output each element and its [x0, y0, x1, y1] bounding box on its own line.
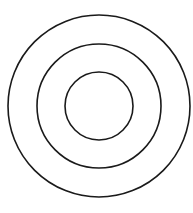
inner-circle — [65, 72, 133, 140]
concentric-circles-diagram — [0, 0, 193, 213]
middle-circle — [37, 44, 161, 168]
outer-circle — [8, 15, 190, 197]
